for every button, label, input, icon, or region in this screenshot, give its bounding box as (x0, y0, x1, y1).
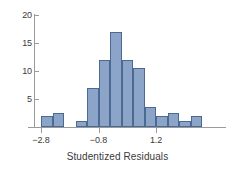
y-axis-tick-label: 10 (10, 66, 32, 76)
histogram-bar (145, 107, 157, 127)
plot-area: 20 15 10 5 −2.8 −0.8 1.2 Studentized Res… (0, 0, 235, 178)
histogram-bar (110, 32, 122, 127)
histogram-bar (87, 88, 99, 127)
x-axis-line (28, 127, 226, 128)
x-axis-tick-label: −2.8 (23, 135, 59, 145)
x-axis-tick-label: 1.2 (138, 135, 174, 145)
histogram-bar (122, 60, 134, 127)
histogram-bar (133, 68, 145, 127)
x-axis-tick (99, 127, 100, 133)
x-axis-tick-label: −0.8 (81, 135, 117, 145)
histogram-bar (191, 116, 203, 127)
y-axis-tick-label: 15 (10, 38, 32, 48)
y-axis-tick (34, 99, 39, 100)
y-axis-tick (34, 15, 39, 16)
x-axis-tick (41, 127, 42, 133)
histogram-bar (41, 116, 53, 127)
histogram-bar (76, 121, 88, 127)
histogram-bar (179, 121, 191, 127)
histogram-bar (168, 113, 180, 127)
y-axis-tick-label: 20 (10, 10, 32, 20)
histogram-bar (156, 116, 168, 127)
histogram-bar (53, 113, 65, 127)
x-axis-title: Studentized Residuals (0, 151, 235, 162)
y-axis-tick (34, 43, 39, 44)
y-axis-tick-label: 5 (10, 94, 32, 104)
histogram-bar (99, 60, 111, 127)
x-axis-tick (156, 127, 157, 133)
histogram-figure: 20 15 10 5 −2.8 −0.8 1.2 Studentized Res… (0, 0, 235, 178)
y-axis-tick (34, 71, 39, 72)
